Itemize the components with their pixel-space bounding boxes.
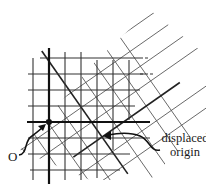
displaced-origin-label: displaced origin xyxy=(160,131,206,159)
coordinate-grid-diagram xyxy=(0,0,206,189)
displaced-origin-arrowhead-icon xyxy=(103,131,111,140)
displaced-origin-label-line2: origin xyxy=(160,145,206,159)
displaced-origin-arrow xyxy=(108,133,160,150)
origin-arrow xyxy=(19,126,44,155)
square-grid xyxy=(28,52,155,180)
displaced-origin-label-line1: displaced xyxy=(160,131,206,145)
origin-label: O xyxy=(8,150,17,163)
rotated-y-axis xyxy=(42,51,128,174)
origin-point xyxy=(46,119,52,125)
rotated-grid xyxy=(0,0,206,189)
rotated-axes xyxy=(13,0,206,189)
